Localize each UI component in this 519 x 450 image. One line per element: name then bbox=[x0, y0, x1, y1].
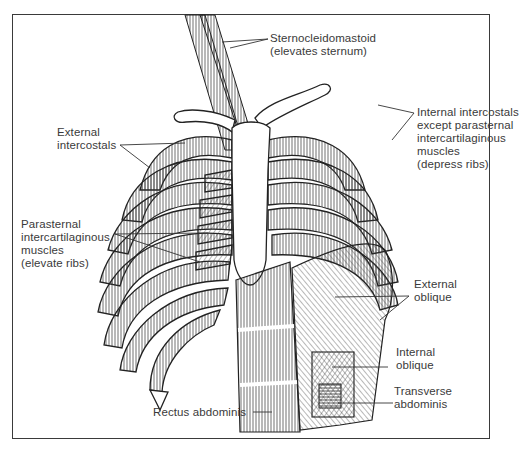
label-line: (elevates sternum) bbox=[270, 45, 376, 58]
label-line: Sternocleidomastoid bbox=[270, 32, 376, 45]
label-line: External bbox=[57, 126, 116, 139]
label-line: Rectus abdominis bbox=[153, 406, 246, 419]
label-line: abdominis bbox=[394, 398, 452, 411]
label-sternocleidomastoid: Sternocleidomastoid (elevates sternum) bbox=[270, 32, 376, 58]
label-line: Transverse bbox=[394, 385, 452, 398]
label-line: intercartilaginous bbox=[21, 231, 110, 244]
label-line: (depress ribs) bbox=[417, 158, 519, 171]
sternum bbox=[232, 122, 270, 285]
label-line: Internal intercostals bbox=[417, 106, 519, 119]
label-line: muscles bbox=[417, 145, 519, 158]
label-line: intercostals bbox=[57, 139, 116, 152]
label-line: Parasternal bbox=[21, 218, 110, 231]
label-internal-oblique: Internal oblique bbox=[396, 346, 435, 372]
label-line: muscles bbox=[21, 244, 110, 257]
label-line: except parasternal bbox=[417, 119, 519, 132]
left-ribs bbox=[98, 137, 232, 410]
label-line: (elevate ribs) bbox=[21, 257, 110, 270]
label-line: External bbox=[414, 278, 457, 291]
label-line: oblique bbox=[414, 291, 457, 304]
label-line: oblique bbox=[396, 359, 435, 372]
label-line: Internal bbox=[396, 346, 435, 359]
label-external-oblique: External oblique bbox=[414, 278, 457, 304]
label-line: intercartilaginous bbox=[417, 132, 519, 145]
label-parasternal-intercartilaginous: Parasternal intercartilaginous muscles (… bbox=[21, 218, 110, 270]
transverse-abdominis-muscle bbox=[319, 384, 341, 408]
label-internal-intercostals: Internal intercostals except parasternal… bbox=[417, 106, 519, 171]
label-rectus-abdominis: Rectus abdominis bbox=[153, 406, 246, 419]
label-transverse-abdominis: Transverse abdominis bbox=[394, 385, 452, 411]
label-external-intercostals: External intercostals bbox=[57, 126, 116, 152]
